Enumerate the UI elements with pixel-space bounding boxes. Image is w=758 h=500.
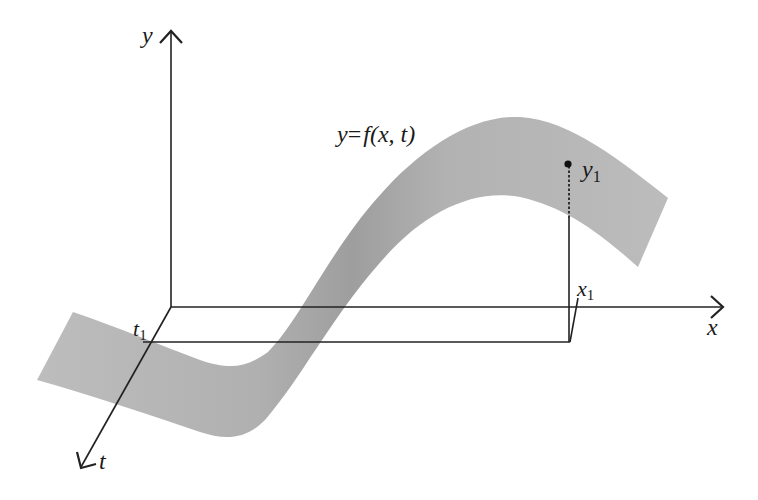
diagram-canvas [0, 0, 758, 500]
t-axis-label: t [99, 449, 106, 473]
function-lhs: y [337, 121, 348, 147]
surface-band [37, 117, 668, 437]
x1-base: x [577, 276, 587, 301]
function-label: y= f(x, t) [337, 122, 415, 146]
t1-label: t1 [133, 318, 147, 343]
y-axis-label: y [142, 23, 153, 47]
function-rhs: f(x, t) [363, 121, 415, 147]
t-axis-arrowhead-icon [77, 452, 96, 468]
function-eq: = [348, 121, 362, 147]
x1-sub: 1 [587, 287, 594, 303]
surface-diagram: y x t y= f(x, t) y1 x1 t1 [0, 0, 758, 500]
x1-slant-line [570, 298, 578, 342]
y1-label: y1 [582, 157, 601, 185]
t1-sub: 1 [139, 327, 146, 343]
x-axis-label: x [707, 315, 718, 339]
y1-point [564, 160, 571, 167]
x1-label: x1 [577, 278, 594, 303]
y1-base: y [582, 156, 593, 182]
y1-sub: 1 [593, 167, 601, 186]
